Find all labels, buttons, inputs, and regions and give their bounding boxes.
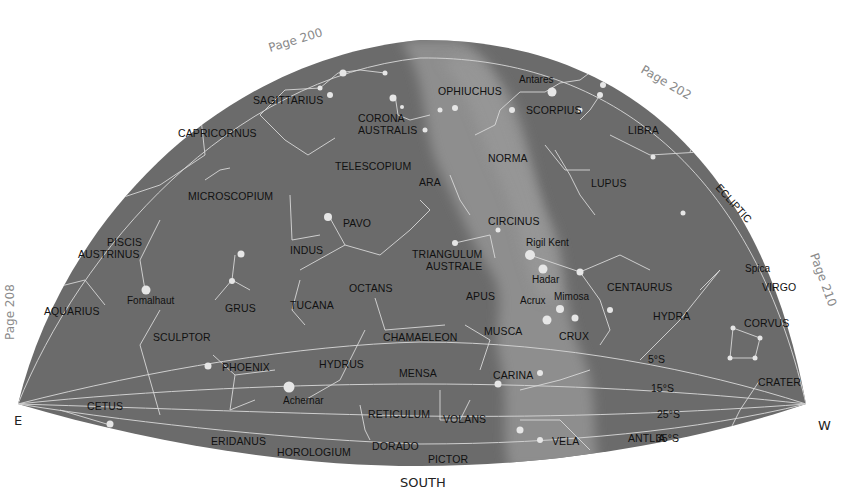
constellation-label-chamaeleon: CHAMAELEON [383,331,458,343]
constellation-label-australe: AUSTRALE [426,260,482,272]
constellation-label-scorpius: SCORPIUS [526,104,582,116]
constellation-label-phoenix: PHOENIX [222,361,270,373]
constellation-label-grus: GRUS [225,302,256,314]
constellation-label-ara: ARA [419,176,441,188]
constellation-label-libra: LIBRA [628,124,659,136]
constellation-label-indus: INDUS [290,244,323,256]
constellation-label-tucana: TUCANA [290,299,334,311]
star-label-spica: Spica [745,263,770,274]
constellation-label-capricornus: CAPRICORNUS [178,127,257,139]
star-label-hadar: Hadar [532,274,560,285]
constellation-label-austrinus: AUSTRINUS [78,248,140,260]
star-label-rigil-kent: Rigil Kent [526,237,569,248]
constellation-label-crux: CRUX [559,330,589,342]
page-ref-page-210: Page 210 [807,251,839,308]
constellation-label-vela: VELA [552,435,579,447]
star-label-antares: Antares [519,74,553,85]
star-label-acrux: Acrux [520,295,546,306]
constellation-label-centaurus: CENTAURUS [607,281,672,293]
constellation-label-corona: CORONA [358,112,405,124]
constellation-label-apus: APUS [466,290,495,302]
dec-label-5s: 5°S [648,353,665,365]
constellation-label-corvus: CORVUS [744,317,789,329]
constellation-label-carina: CARINA [493,369,533,381]
constellation-label-dorado: DORADO [372,440,419,452]
dec-label-25s: 25°S [657,408,680,420]
star-chart: SAGITTARIUSCORONAAUSTRALISOPHIUCHUSSCORP… [0,0,849,492]
constellation-label-virgo: VIRGO [762,281,796,293]
star-label-achernar: Achernar [283,395,324,406]
compass-west: W [818,418,831,433]
page-ref-page-200: Page 200 [267,25,324,55]
constellation-label-mensa: MENSA [399,367,437,379]
page-ref-page-208: Page 208 [3,284,17,340]
constellation-label-hydra: HYDRA [653,310,690,322]
constellation-label-piscis: PISCIS [107,236,142,248]
constellation-label-musca: MUSCA [484,325,522,337]
constellation-label-telescopium: TELESCOPIUM [335,160,411,172]
constellation-label-circinus: CIRCINUS [488,215,540,227]
compass-south: SOUTH [400,475,446,490]
constellation-label-lupus: LUPUS [591,177,627,189]
constellation-label-aquarius: AQUARIUS [44,305,100,317]
constellation-label-pavo: PAVO [343,217,371,229]
constellation-label-volans: VOLANS [443,413,486,425]
star-label-fomalhaut: Fomalhaut [127,295,174,306]
constellation-label-crater: CRATER [758,376,801,388]
constellation-label-horologium: HOROLOGIUM [277,446,351,458]
constellation-label-microscopium: MICROSCOPIUM [188,190,273,202]
constellation-label-hydrus: HYDRUS [319,358,364,370]
compass-east: E [14,413,22,428]
constellation-label-octans: OCTANS [349,282,393,294]
constellation-label-australis: AUSTRALIS [358,124,417,136]
constellation-label-pictor: PICTOR [428,453,468,465]
constellation-label-ophiuchus: OPHIUCHUS [438,85,502,97]
constellation-label-eridanus: ERIDANUS [211,435,266,447]
constellation-label-norma: NORMA [488,152,528,164]
page-ref-page-202: Page 202 [639,62,694,102]
dec-label-35s: 35°S [656,432,679,444]
constellation-label-triangulum: TRIANGULUM [412,248,482,260]
star-label-mimosa: Mimosa [554,291,589,302]
constellation-label-sculptor: SCULPTOR [153,331,211,343]
constellation-label-cetus: CETUS [87,400,123,412]
dec-label-15s: 15°S [651,382,674,394]
constellation-label-reticulum: RETICULUM [368,408,430,420]
constellation-label-sagittarius: SAGITTARIUS [253,94,323,106]
